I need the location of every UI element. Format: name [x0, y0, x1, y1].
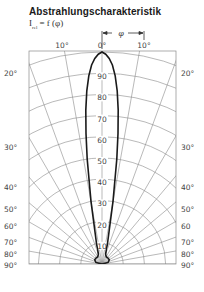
angle-tick-right: 30°: [181, 143, 195, 152]
angle-tick-left: 40°: [4, 183, 18, 192]
angle-tick-right: 20°: [181, 69, 195, 78]
radial-tick: 70: [97, 115, 107, 124]
angle-tick-top: 10°: [55, 41, 69, 50]
angle-tick-left: 60°: [4, 222, 18, 231]
angle-tick-left: 70°: [4, 238, 18, 247]
angle-tick-right: 60: [181, 222, 191, 231]
radial-tick: 50: [97, 157, 107, 166]
radial-tick: 10: [97, 242, 107, 251]
polar-chart: φ 10°0°10°20°30°40°50°60°70°80°90°20°30°…: [0, 0, 204, 292]
angle-tick-right: 70°: [181, 238, 195, 247]
radial-tick: 20: [97, 221, 107, 230]
angle-tick-left: 80°: [4, 250, 18, 259]
angle-tick-right: 90°: [181, 261, 195, 270]
angle-tick-top: 10°: [137, 41, 151, 50]
radial-tick: 90: [97, 72, 107, 81]
angle-tick-right: 50°: [181, 205, 195, 214]
radial-tick: 80: [97, 93, 107, 102]
angle-tick-left: 90°: [4, 261, 18, 270]
angle-tick-left: 50°: [4, 205, 18, 214]
radial-tick: 30: [97, 199, 107, 208]
radial-tick: 40: [97, 178, 107, 187]
angle-tick-right: 80°: [181, 250, 195, 259]
angle-tick-left: 20°: [4, 69, 18, 78]
axis-labels: 10°0°10°20°30°40°50°60°70°80°90°20°30°40…: [4, 41, 195, 270]
angle-tick-right: 40°: [181, 183, 195, 192]
angle-tick-top: 0°: [98, 41, 107, 50]
angle-tick-left: 30°: [4, 143, 18, 152]
radial-tick: 60: [97, 136, 107, 145]
phi-label: φ: [118, 29, 124, 38]
